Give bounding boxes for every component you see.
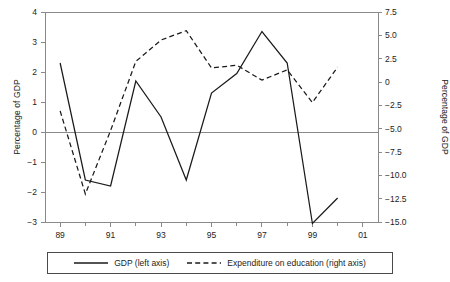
y-axis-left-tick-label: −2 [11, 187, 37, 197]
legend-swatch-dashed-line [187, 259, 221, 267]
x-axis-tick-label: 93 [149, 230, 173, 240]
y-axis-right-tick-label: 2.5 [385, 54, 415, 64]
axes-group [41, 12, 382, 227]
y-axis-right-tick-label: −15.0 [385, 217, 415, 227]
y-axis-right-tick-label: 7.5 [385, 7, 415, 17]
x-axis-tick-label: 89 [48, 230, 72, 240]
x-axis-tick-label: 91 [99, 230, 123, 240]
y-axis-right-tick-label: 0 [385, 77, 415, 87]
y-axis-right-tick-label: −5.0 [385, 124, 415, 134]
x-axis-tick-label: 99 [300, 230, 324, 240]
y-axis-right-tick-label: −10.0 [385, 170, 415, 180]
legend-label: Expenditure on education (right axis) [227, 258, 365, 268]
series-line-expenditure [60, 31, 338, 194]
y-axis-right-tick-label: −2.5 [385, 100, 415, 110]
y-axis-right-tick-label: −7.5 [385, 147, 415, 157]
legend-label: GDP (left axis) [114, 258, 169, 268]
y-axis-left-tick-label: 3 [11, 37, 37, 47]
y-axis-left-tick-label: 1 [11, 97, 37, 107]
x-axis-tick-label: 95 [200, 230, 224, 240]
y-axis-right-tick-label: 5.0 [385, 30, 415, 40]
x-axis-tick-label: 97 [250, 230, 274, 240]
x-axis-tick-label: 01 [351, 230, 375, 240]
y-axis-left-tick-label: −3 [11, 217, 37, 227]
series-group [60, 31, 338, 224]
legend-swatch-solid-line [74, 259, 108, 267]
series-line-gdp [60, 32, 338, 224]
y-axis-left-tick-label: −1 [11, 157, 37, 167]
legend-item-expenditure[interactable]: Expenditure on education (right axis) [187, 258, 365, 268]
y-axis-right-tick-label: −12.5 [385, 194, 415, 204]
chart-legend: GDP (left axis)Expenditure on education … [47, 252, 393, 274]
y-axis-left-tick-label: 2 [11, 67, 37, 77]
y-axis-left-tick-label: 0 [11, 127, 37, 137]
y-axis-left-tick-label: 4 [11, 7, 37, 17]
y-axis-right-title: Percentage of GDP [440, 57, 450, 177]
legend-item-gdp[interactable]: GDP (left axis) [74, 258, 169, 268]
